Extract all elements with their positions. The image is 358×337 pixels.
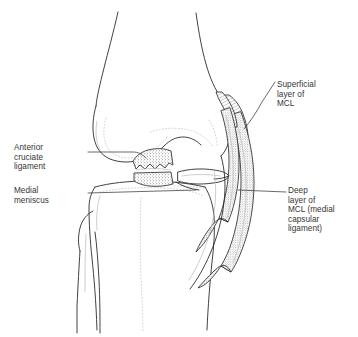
femur-intercondylar-notch [164, 137, 201, 146]
tibia-medial-border [89, 187, 97, 330]
femur-trochlear-groove-hint [150, 128, 213, 147]
label-deep-layer-mcl: Deep layer of MCL (medial capsular ligam… [288, 186, 358, 234]
label-superficial-layer-mcl: Superficial layer of MCL [277, 80, 355, 109]
femur-epicondyle-hint [209, 120, 217, 146]
tibia-lateral-border [205, 187, 214, 330]
label-medial-meniscus: Medial meniscus [14, 186, 88, 205]
femur-group [93, 12, 230, 162]
femur-shaft-medial-edge [96, 12, 118, 106]
acl-tibial-stump [134, 172, 173, 186]
label-anterior-cruciate-ligament: Anterior cruciate ligament [14, 143, 88, 172]
knee-anatomy-figure: Anterior cruciate ligament Medial menisc… [0, 0, 358, 337]
tibia-anterior-crest [140, 198, 143, 332]
medial-meniscus-wedge [178, 169, 229, 184]
fibula-shaft-medial [95, 232, 100, 333]
acl-stump-edge-hint [136, 169, 170, 171]
tibia-group [89, 181, 214, 332]
tibia-plateau-shadow [100, 188, 204, 196]
acl-femoral-stump [133, 149, 173, 169]
femur-shaft-lateral-edge [196, 13, 222, 99]
tibia-medial-flare [97, 196, 100, 230]
fibula-shaft-lateral [77, 251, 80, 333]
medial-meniscus-group [174, 169, 229, 190]
leader-superficial-mcl [244, 82, 275, 129]
fibula-inner-shadow [85, 234, 86, 292]
anterior-cruciate-ligament-stumps [133, 149, 173, 187]
